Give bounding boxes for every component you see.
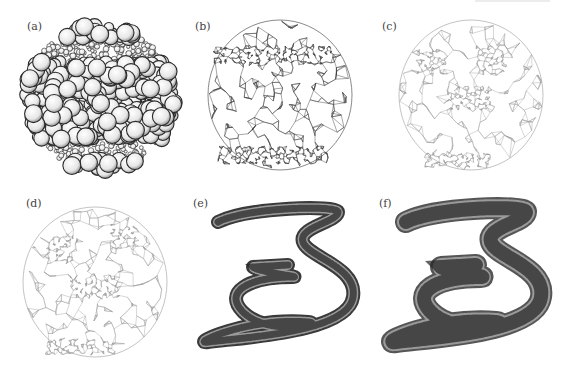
panel-f: (f) xyxy=(376,187,564,374)
panel-label-b: (b) xyxy=(195,20,211,33)
panel-c: (c) xyxy=(376,0,564,187)
spiral-pointcloud-figure xyxy=(188,187,376,374)
panel-a: (a) xyxy=(0,0,188,187)
panel-e: (e) xyxy=(188,187,376,374)
panel-b: (b) xyxy=(188,0,376,187)
spiral-mesh-figure xyxy=(376,187,564,374)
irregular-mesh-figure-d xyxy=(0,187,188,374)
panel-label-c: (c) xyxy=(382,20,397,33)
panel-label-e: (e) xyxy=(193,197,208,210)
panel-d: (d) xyxy=(0,187,188,374)
irregular-mesh-figure-c xyxy=(376,0,564,187)
panel-label-a: (a) xyxy=(27,20,42,33)
sphere-mesh-figure xyxy=(188,0,376,187)
panel-label-d: (d) xyxy=(26,197,42,210)
panel-label-f: (f) xyxy=(379,197,392,210)
